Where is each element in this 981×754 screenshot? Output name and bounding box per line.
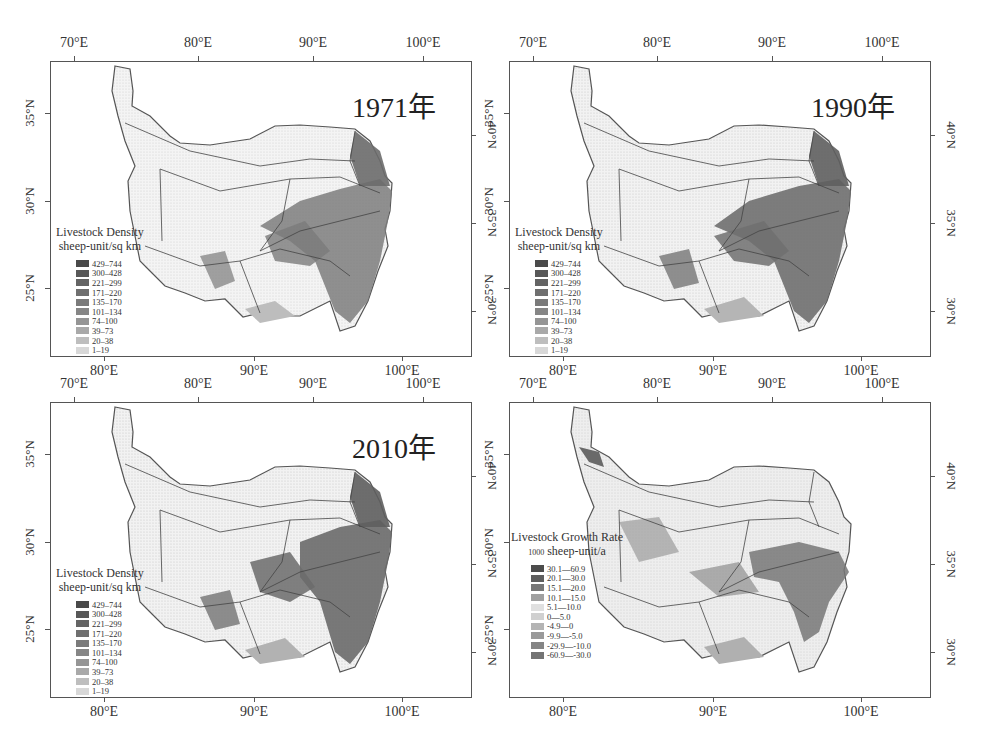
legend-label: 74–100 bbox=[92, 657, 118, 667]
latitude-tick-label: 35°N bbox=[481, 99, 497, 127]
tick-mark bbox=[713, 697, 714, 702]
legend-swatch bbox=[76, 659, 89, 666]
latitude-tick-label: 30°N bbox=[481, 528, 497, 556]
legend-swatch bbox=[76, 260, 89, 267]
tick-mark bbox=[657, 397, 658, 402]
map-panel-growth-rate: Livestock Growth Rate 1000 sheep-unit/a … bbox=[509, 402, 931, 698]
longitude-tick-label: 100°E bbox=[405, 376, 440, 392]
legend-swatch bbox=[535, 299, 548, 306]
legend-swatch bbox=[535, 308, 548, 315]
legend-item: 101–134 bbox=[76, 648, 144, 658]
density-legend: Livestock Density sheep-unit/sq km 429–7… bbox=[515, 225, 603, 355]
tick-mark bbox=[504, 288, 509, 289]
legend-item: 171–220 bbox=[76, 629, 144, 639]
legend-swatch bbox=[76, 601, 89, 608]
legend-label: 0—5.0 bbox=[547, 612, 570, 622]
longitude-tick-label: 70°E bbox=[60, 35, 88, 51]
legend-item: 1–19 bbox=[535, 345, 603, 355]
latitude-tick-label: 35°N bbox=[943, 550, 959, 578]
legend-label: -9.9—-5.0 bbox=[547, 631, 582, 641]
legend-label: 135–170 bbox=[551, 297, 581, 307]
tick-mark bbox=[772, 56, 773, 61]
legend-label: 20–38 bbox=[92, 677, 113, 687]
density-legend: Livestock Density sheep-unit/sq km 429–7… bbox=[56, 566, 144, 696]
legend-unit: sheep-unit/sq km bbox=[56, 580, 144, 596]
legend-swatch bbox=[76, 299, 89, 306]
tick-mark bbox=[504, 629, 509, 630]
legend-item: 74–100 bbox=[76, 658, 144, 668]
year-label: 2010年 bbox=[352, 426, 436, 466]
latitude-tick-label: 30°N bbox=[22, 187, 38, 215]
map-panel-2010: 2010年 Livestock Density sheep-unit/sq km… bbox=[50, 402, 472, 698]
legend-label: 429–744 bbox=[551, 259, 581, 269]
legend-item: -9.9—-5.0 bbox=[531, 631, 623, 641]
legend-swatch bbox=[531, 652, 544, 659]
tick-mark bbox=[254, 697, 255, 702]
legend-item: 10.1—15.0 bbox=[531, 593, 623, 603]
growth-rate-legend: Livestock Growth Rate 1000 sheep-unit/a … bbox=[511, 530, 623, 660]
legend-label: 5.1—10.0 bbox=[547, 602, 581, 612]
legend-swatch bbox=[535, 318, 548, 325]
legend-item: -60.9—-30.0 bbox=[531, 650, 623, 660]
tick-mark bbox=[471, 652, 476, 653]
longitude-tick-label: 80°E bbox=[643, 376, 671, 392]
legend-label: 171–220 bbox=[92, 629, 122, 639]
legend-label: 300–428 bbox=[551, 268, 581, 278]
longitude-tick-label: 70°E bbox=[60, 376, 88, 392]
legend-swatch bbox=[76, 308, 89, 315]
longitude-tick-label: 90°E bbox=[758, 35, 786, 51]
longitude-tick-label: 80°E bbox=[643, 35, 671, 51]
legend-item: 135–170 bbox=[76, 638, 144, 648]
legend-swatch bbox=[76, 347, 89, 354]
legend-label: 15.1—20.0 bbox=[547, 583, 585, 593]
legend-label: 30.1—60.9 bbox=[547, 564, 585, 574]
legend-item: 39–73 bbox=[76, 667, 144, 677]
longitude-tick-label: 80°E bbox=[549, 704, 577, 720]
legend-label: 135–170 bbox=[92, 638, 122, 648]
tick-mark bbox=[104, 356, 105, 361]
tick-mark bbox=[45, 454, 50, 455]
legend-label: 135–170 bbox=[92, 297, 122, 307]
longitude-tick-label: 70°E bbox=[519, 376, 547, 392]
legend-unit: sheep-unit/sq km bbox=[515, 239, 603, 255]
legend-swatch bbox=[76, 318, 89, 325]
map-panel-1990: 1990年 Livestock Density sheep-unit/sq km… bbox=[509, 61, 931, 357]
tick-mark bbox=[198, 56, 199, 61]
longitude-tick-label: 80°E bbox=[184, 376, 212, 392]
tick-mark bbox=[313, 397, 314, 402]
legend-item: 221–299 bbox=[76, 278, 144, 288]
legend-swatch bbox=[531, 613, 544, 620]
legend-label: 1–19 bbox=[92, 345, 109, 355]
tick-mark bbox=[504, 201, 509, 202]
legend-swatch bbox=[76, 337, 89, 344]
tick-mark bbox=[930, 135, 935, 136]
legend-item: 300–428 bbox=[76, 269, 144, 279]
legend-label: 300–428 bbox=[92, 268, 122, 278]
tick-mark bbox=[471, 135, 476, 136]
legend-swatch bbox=[76, 668, 89, 675]
legend-swatch bbox=[76, 279, 89, 286]
latitude-tick-label: 35°N bbox=[22, 440, 38, 468]
tick-mark bbox=[45, 542, 50, 543]
latitude-tick-label: 35°N bbox=[481, 440, 497, 468]
legend-swatch bbox=[76, 327, 89, 334]
latitude-tick-label: 30°N bbox=[943, 638, 959, 666]
legend-item: 101–134 bbox=[535, 307, 603, 317]
legend-item: 221–299 bbox=[76, 619, 144, 629]
legend-swatch bbox=[535, 279, 548, 286]
tick-mark bbox=[402, 356, 403, 361]
legend-title: Livestock Density bbox=[515, 225, 603, 239]
tick-mark bbox=[882, 56, 883, 61]
legend-item: 39–73 bbox=[535, 326, 603, 336]
legend-label: 101–134 bbox=[92, 307, 122, 317]
legend-item: 20.1—30.0 bbox=[531, 574, 623, 584]
legend-item: 74–100 bbox=[535, 317, 603, 327]
tick-mark bbox=[104, 697, 105, 702]
tick-mark bbox=[423, 397, 424, 402]
legend-label: 39–73 bbox=[92, 667, 113, 677]
legend-item: 135–170 bbox=[535, 297, 603, 307]
latitude-tick-label: 25°N bbox=[481, 274, 497, 302]
tick-mark bbox=[402, 697, 403, 702]
legend-swatch bbox=[535, 289, 548, 296]
legend-label: 20–38 bbox=[92, 336, 113, 346]
